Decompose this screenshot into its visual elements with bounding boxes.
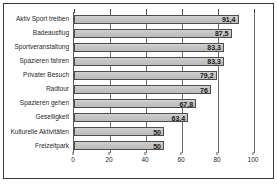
axis-tick-mark xyxy=(73,152,74,155)
bar[interactable]: 83,3 xyxy=(74,43,224,52)
bar[interactable]: 50 xyxy=(74,141,164,150)
axis-tick-mark xyxy=(109,152,110,155)
bar-value-label: 67,8 xyxy=(178,100,194,107)
category-label: Privater Besuch xyxy=(23,68,69,82)
chart-screenshot: Aktiv Sport treibenBadeausflugSportveran… xyxy=(0,0,277,184)
bar-rows: 91,487,583,383,379,27667,863,45050 xyxy=(74,12,253,153)
axis-tick-mark xyxy=(253,152,254,155)
category-label: Aktiv Sport treiben xyxy=(16,12,69,26)
axis-tick-label: 0 xyxy=(71,156,75,163)
bar-value-label: 83,3 xyxy=(206,44,222,51)
bar[interactable]: 91,4 xyxy=(74,15,239,24)
bar-value-label: 87,5 xyxy=(214,30,230,37)
value-axis-labels: 020406080100 xyxy=(73,156,253,170)
axis-tick-mark xyxy=(145,152,146,155)
category-label: Freizeitpark xyxy=(35,139,69,153)
bar[interactable]: 87,5 xyxy=(74,29,232,38)
category-label: Badeausflug xyxy=(33,26,69,40)
bar-row: 83,3 xyxy=(74,40,253,54)
category-label: Radtour xyxy=(46,83,69,97)
axis-tick-mark xyxy=(217,152,218,155)
bar[interactable]: 50 xyxy=(74,127,164,136)
bar-row: 50 xyxy=(74,139,253,153)
bar[interactable]: 67,8 xyxy=(74,99,196,108)
bar-row: 63,4 xyxy=(74,111,253,125)
bar-row: 50 xyxy=(74,125,253,139)
axis-tick-label: 100 xyxy=(248,156,259,163)
bar-row: 87,5 xyxy=(74,26,253,40)
category-label: Spazieren fahren xyxy=(19,54,69,68)
bar-value-label: 50 xyxy=(152,128,162,135)
bar-value-label: 91,4 xyxy=(221,16,237,23)
bar[interactable]: 76 xyxy=(74,85,211,94)
bar-value-label: 79,2 xyxy=(199,72,215,79)
axis-tick xyxy=(254,9,255,13)
bar-value-label: 50 xyxy=(152,142,162,149)
bar[interactable]: 79,2 xyxy=(74,71,217,80)
category-label: Sportveranstaltung xyxy=(14,40,69,54)
chart-area: Aktiv Sport treibenBadeausflugSportveran… xyxy=(4,4,275,180)
category-axis-labels: Aktiv Sport treibenBadeausflugSportveran… xyxy=(4,12,71,153)
plot-region: 91,487,583,383,379,27667,863,45050 xyxy=(73,12,253,153)
category-label: Kulturelle Aktivitäten xyxy=(10,125,69,139)
bar-row: 79,2 xyxy=(74,68,253,82)
bar-row: 83,3 xyxy=(74,54,253,68)
bar-value-label: 83,3 xyxy=(206,58,222,65)
gridline xyxy=(254,12,255,153)
bar[interactable]: 83,3 xyxy=(74,57,224,66)
axis-tick-label: 40 xyxy=(141,156,148,163)
category-label: Spazieren gehen xyxy=(20,97,69,111)
axis-tick-label: 20 xyxy=(105,156,112,163)
axis-tick-label: 60 xyxy=(177,156,184,163)
bar-row: 91,4 xyxy=(74,12,253,26)
bar-value-label: 76 xyxy=(199,86,209,93)
axis-tick-label: 80 xyxy=(213,156,220,163)
bar-value-label: 63,4 xyxy=(170,114,186,121)
chart-frame: Aktiv Sport treibenBadeausflugSportveran… xyxy=(3,3,274,179)
axis-tick-mark xyxy=(181,152,182,155)
category-label: Geselligkeit xyxy=(35,111,69,125)
bar-row: 67,8 xyxy=(74,97,253,111)
bar-row: 76 xyxy=(74,83,253,97)
bar[interactable]: 63,4 xyxy=(74,113,188,122)
